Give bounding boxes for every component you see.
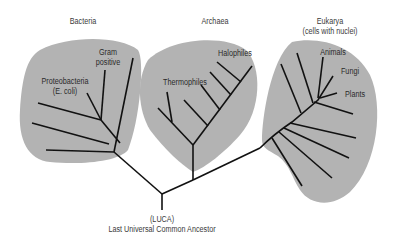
archaea-region xyxy=(140,40,257,172)
group-label-animals: Animals xyxy=(312,47,355,57)
group-label-gram-positive-2: positive xyxy=(91,57,125,67)
group-label-proteobacteria-1: Proteobacteria xyxy=(35,76,95,86)
group-label-thermophiles: Thermophiles xyxy=(155,77,215,87)
domain-label-archaea: Archaea xyxy=(194,16,237,26)
group-label-plants: Plants xyxy=(338,89,372,99)
tree-of-life-diagram xyxy=(0,0,394,250)
luca-abbreviation: (LUCA) xyxy=(137,214,188,224)
group-label-halophiles: Halophiles xyxy=(210,48,261,58)
eukarya-region xyxy=(262,40,377,202)
luca-label: Last Universal Common Ancestor xyxy=(103,224,222,234)
domain-label-bacteria: Bacteria xyxy=(62,16,105,26)
group-label-gram-positive-1: Gram xyxy=(91,47,125,57)
domain-label-eukarya: Eukarya xyxy=(305,16,356,26)
group-label-proteobacteria-2: (E. coli) xyxy=(35,86,95,96)
group-label-fungi: Fungi xyxy=(333,66,367,76)
domain-sublabel-eukarya: (cells with nuclei) xyxy=(288,26,373,36)
